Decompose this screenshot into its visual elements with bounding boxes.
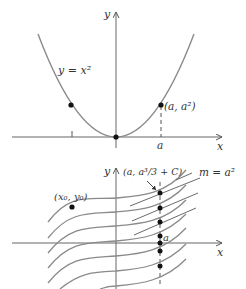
initial-point-x0-y0 — [69, 204, 74, 209]
bottom-x-axis-label: x — [217, 246, 224, 259]
tangent-line — [132, 193, 198, 221]
top-tick-label-a: a — [157, 139, 163, 151]
solution-curve — [48, 200, 186, 253]
point-neg-a — [68, 102, 73, 107]
point — [158, 206, 163, 211]
point — [158, 264, 163, 269]
label-pointer-arrow — [147, 181, 156, 190]
solution-curve — [100, 259, 186, 289]
solution-curve — [60, 244, 186, 289]
tangent-line — [134, 208, 196, 235]
point — [158, 191, 163, 196]
bottom-y-axis-label: y — [103, 165, 111, 178]
top-y-axis-label: y — [103, 8, 111, 21]
top-x-axis-label: x — [217, 140, 224, 153]
cubic-family — [48, 170, 186, 289]
point — [158, 241, 163, 246]
bottom-tick-label-a: a — [163, 232, 169, 243]
initial-point-label: (x₀, y₀) — [54, 191, 88, 202]
diagram-canvas: y x y = x² (a, a²) a y x (x₀, y₀) (a, a³… — [0, 0, 246, 289]
point-origin — [113, 134, 118, 139]
point-a-a2 — [158, 102, 163, 107]
slope-label: m = a² — [199, 166, 235, 178]
bottom-point-label: (a, a³/3 + C) — [123, 166, 182, 177]
top-graph — [12, 12, 222, 148]
tangent-lines — [130, 178, 200, 235]
point — [158, 249, 163, 254]
point — [158, 234, 163, 239]
top-point-label: (a, a²) — [164, 100, 196, 112]
curve-label: y = x² — [57, 64, 91, 77]
point — [158, 220, 163, 225]
bottom-graph — [12, 168, 222, 289]
